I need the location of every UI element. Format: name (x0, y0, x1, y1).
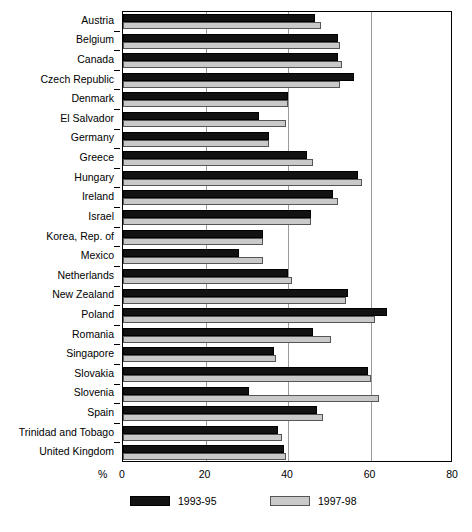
bar-group (123, 149, 451, 169)
bar-group (123, 130, 451, 150)
category-tick (114, 227, 120, 228)
category-tick (114, 70, 120, 71)
bar-1993-95 (123, 249, 239, 257)
category-tick (114, 364, 120, 365)
category-label: Belgium (76, 34, 114, 45)
category-label: Ireland (82, 191, 114, 202)
category-tick (114, 403, 120, 404)
category-tick (114, 207, 120, 208)
bar-1993-95 (123, 190, 333, 198)
bar-group (123, 169, 451, 189)
bar-1997-98 (123, 257, 263, 264)
category-tick (114, 50, 120, 51)
bar-group (123, 306, 451, 326)
bar-1997-98 (123, 198, 338, 205)
bar-group (123, 345, 451, 365)
category-label: Czech Republic (40, 74, 114, 85)
bar-1997-98 (123, 395, 379, 402)
legend-item[interactable]: 1997-98 (270, 494, 357, 508)
category-tick (114, 442, 120, 443)
category-label: Romania (72, 329, 114, 340)
category-tick (114, 344, 120, 345)
category-label: Denmark (71, 93, 114, 104)
bar-1997-98 (123, 120, 286, 127)
bar-group (123, 12, 451, 32)
category-tick (114, 129, 120, 130)
category-tick (114, 148, 120, 149)
chart-legend: 1993-951997-98 (122, 494, 452, 512)
xtick-label-0: 0 (119, 468, 125, 480)
bar-1997-98 (123, 414, 323, 421)
bar-1997-98 (123, 179, 362, 186)
bar-group (123, 443, 451, 463)
bar-group (123, 71, 451, 91)
category-label: Canada (77, 54, 114, 65)
bar-1993-95 (123, 308, 387, 316)
bar-1997-98 (123, 100, 288, 107)
category-tick (114, 423, 120, 424)
category-tick (114, 187, 120, 188)
bar-1997-98 (123, 218, 311, 225)
legend-item[interactable]: 1993-95 (130, 494, 217, 508)
category-tick (114, 246, 120, 247)
category-label: Greece (80, 152, 114, 163)
category-tick (114, 305, 120, 306)
bar-group (123, 365, 451, 385)
bar-group (123, 188, 451, 208)
bar-1997-98 (123, 453, 286, 460)
bar-1993-95 (123, 151, 307, 159)
category-label: Korea, Rep. of (46, 231, 114, 242)
bar-1993-95 (123, 34, 338, 42)
category-tick (114, 384, 120, 385)
category-label: El Salvador (60, 113, 114, 124)
category-label: Netherlands (57, 270, 114, 281)
category-label: Slovenia (74, 387, 114, 398)
bar-chart: AustriaBelgiumCanadaCzech RepublicDenmar… (0, 0, 472, 532)
bar-group (123, 247, 451, 267)
bar-1997-98 (123, 355, 276, 362)
category-label: New Zealand (52, 289, 114, 300)
category-label: Hungary (74, 172, 114, 183)
bar-1997-98 (123, 316, 375, 323)
bar-1993-95 (123, 406, 317, 414)
bar-1993-95 (123, 426, 278, 434)
bar-1997-98 (123, 434, 282, 441)
bar-1993-95 (123, 445, 284, 453)
bar-1997-98 (123, 159, 313, 166)
bar-1997-98 (123, 61, 342, 68)
category-label: Germany (71, 132, 114, 143)
bar-1993-95 (123, 171, 358, 179)
bar-1997-98 (123, 140, 269, 147)
xtick-label-60: 60 (364, 468, 376, 480)
bar-1993-95 (123, 347, 274, 355)
bar-1993-95 (123, 387, 249, 395)
bar-1993-95 (123, 53, 338, 61)
legend-swatch-icon (270, 496, 310, 506)
bar-group (123, 267, 451, 287)
category-tick (114, 286, 120, 287)
legend-swatch-icon (130, 496, 170, 506)
bar-1993-95 (123, 328, 313, 336)
xtick-label-80: 80 (446, 468, 458, 480)
bar-group (123, 404, 451, 424)
bar-1993-95 (123, 92, 288, 100)
bar-group (123, 287, 451, 307)
bar-group (123, 385, 451, 405)
category-tick (114, 266, 120, 267)
legend-label: 1997-98 (318, 495, 357, 507)
bar-1993-95 (123, 289, 348, 297)
bar-1997-98 (123, 42, 340, 49)
bar-1993-95 (123, 367, 368, 375)
category-tick (114, 168, 120, 169)
bar-rows (123, 12, 451, 461)
bar-group (123, 32, 451, 52)
plot-area (122, 11, 452, 462)
bar-1993-95 (123, 210, 311, 218)
bar-group (123, 228, 451, 248)
category-label: Israel (88, 211, 114, 222)
xtick-label-20: 20 (199, 468, 211, 480)
category-label: Spain (87, 407, 114, 418)
category-label: United Kingdom (39, 446, 114, 457)
bar-1997-98 (123, 375, 371, 382)
bar-1997-98 (123, 277, 292, 284)
